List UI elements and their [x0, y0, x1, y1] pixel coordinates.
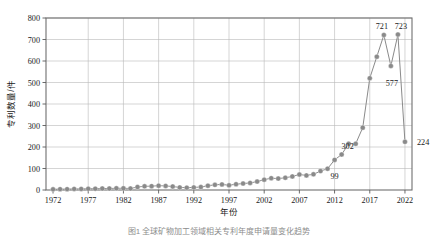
data-point-marker	[142, 184, 147, 189]
data-point-marker	[325, 166, 330, 171]
data-point-marker	[149, 184, 154, 189]
data-point-marker	[65, 187, 70, 192]
data-point-marker	[72, 186, 77, 191]
data-point-marker	[318, 169, 323, 174]
data-point-marker	[276, 176, 281, 181]
data-point-marker	[234, 182, 239, 187]
data-point-marker	[58, 187, 63, 192]
data-point-marker	[304, 173, 309, 178]
data-point-marker	[269, 176, 274, 181]
patent-trend-line-chart: 0100200300400500600700800197219771982198…	[0, 0, 438, 237]
y-axis-tick-label: 100	[28, 165, 40, 174]
data-point-label: 99	[330, 172, 338, 181]
data-point-marker	[283, 175, 288, 180]
data-point-marker	[255, 179, 260, 184]
data-point-label: 723	[395, 22, 407, 31]
data-point-marker	[262, 177, 267, 182]
data-point-label: 721	[376, 22, 388, 31]
x-axis-tick-label: 1997	[221, 196, 237, 205]
y-axis-tick-label: 400	[28, 100, 40, 109]
y-axis-title: 专利数量/件	[6, 80, 16, 127]
y-axis-tick-label: 600	[28, 57, 40, 66]
data-point-marker	[93, 186, 98, 191]
data-point-marker	[51, 187, 56, 192]
data-point-marker	[198, 184, 203, 189]
data-point-marker	[191, 185, 196, 190]
data-point-marker	[219, 182, 224, 187]
data-point-label: 577	[386, 79, 398, 88]
data-point-marker	[177, 185, 182, 190]
data-point-marker	[402, 139, 407, 144]
data-point-marker	[107, 186, 112, 191]
data-point-label: 302	[341, 142, 353, 151]
chart-figure: 0100200300400500600700800197219771982198…	[0, 0, 438, 237]
data-point-label: 224	[417, 138, 429, 147]
data-point-marker	[332, 157, 337, 162]
data-point-marker	[170, 184, 175, 189]
data-point-marker	[135, 184, 140, 189]
data-point-marker	[205, 183, 210, 188]
data-point-marker	[227, 183, 232, 188]
figure-caption: 图1 全球矿物加工领域相关专利年度申请量变化趋势	[0, 227, 438, 237]
data-point-marker	[86, 186, 91, 191]
x-axis-tick-label: 2017	[362, 196, 378, 205]
x-axis-tick-label: 2012	[326, 196, 342, 205]
y-axis-tick-label: 200	[28, 143, 40, 152]
data-point-marker	[290, 174, 295, 179]
y-axis-tick-label: 500	[28, 79, 40, 88]
data-point-marker	[128, 186, 133, 191]
data-point-marker	[353, 141, 358, 146]
y-axis-tick-label: 800	[28, 14, 40, 23]
x-axis-tick-label: 2022	[397, 196, 413, 205]
data-point-marker	[121, 186, 126, 191]
x-axis-tick-label: 1987	[150, 196, 166, 205]
data-point-marker	[339, 152, 344, 157]
data-point-marker	[241, 181, 246, 186]
data-point-marker	[114, 186, 119, 191]
data-point-marker	[297, 172, 302, 177]
x-axis-tick-label: 2002	[256, 196, 272, 205]
data-point-marker	[395, 32, 400, 37]
data-point-marker	[360, 125, 365, 130]
data-point-marker	[156, 183, 161, 188]
data-point-marker	[367, 76, 372, 81]
data-point-marker	[248, 180, 253, 185]
data-point-marker	[212, 182, 217, 187]
x-axis-tick-label: 1992	[186, 196, 202, 205]
data-point-marker	[184, 185, 189, 190]
y-axis-tick-label: 0	[36, 186, 40, 195]
x-axis-tick-label: 2007	[291, 196, 307, 205]
data-point-marker	[163, 183, 168, 188]
data-point-marker	[311, 172, 316, 177]
y-axis-tick-label: 700	[28, 36, 40, 45]
x-axis-tick-label: 1972	[45, 196, 61, 205]
x-axis-tick-label: 1982	[115, 196, 131, 205]
data-point-marker	[388, 63, 393, 68]
x-axis-tick-label: 1977	[80, 196, 96, 205]
x-axis-title: 年份	[220, 207, 238, 217]
y-axis-tick-label: 300	[28, 122, 40, 131]
data-point-marker	[381, 32, 386, 37]
data-point-marker	[100, 186, 105, 191]
data-point-marker	[79, 186, 84, 191]
data-point-marker	[374, 54, 379, 59]
